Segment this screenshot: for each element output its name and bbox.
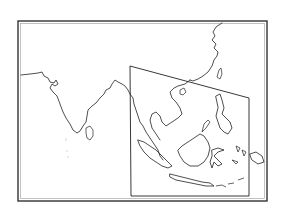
taiwan-island [217, 68, 222, 79]
south-asia-coastline [21, 72, 130, 133]
hainan-island [180, 88, 186, 95]
china-coastline [190, 23, 222, 81]
java-island [170, 174, 214, 186]
indochina-coastline [130, 80, 190, 160]
palawan-island [202, 120, 210, 132]
sri-lanka-island [86, 126, 93, 140]
lesser-sunda-islands [216, 178, 244, 187]
philippines-islands [216, 94, 232, 134]
new-guinea-edge [250, 152, 264, 164]
sulawesi-island [210, 148, 224, 168]
map-frame [18, 21, 267, 201]
maldives-dots [66, 138, 68, 158]
outline-map [0, 0, 281, 210]
maluku-islands [232, 146, 246, 164]
borneo-island [178, 134, 210, 166]
inset-box [130, 66, 249, 196]
sumatra-island [138, 140, 172, 168]
